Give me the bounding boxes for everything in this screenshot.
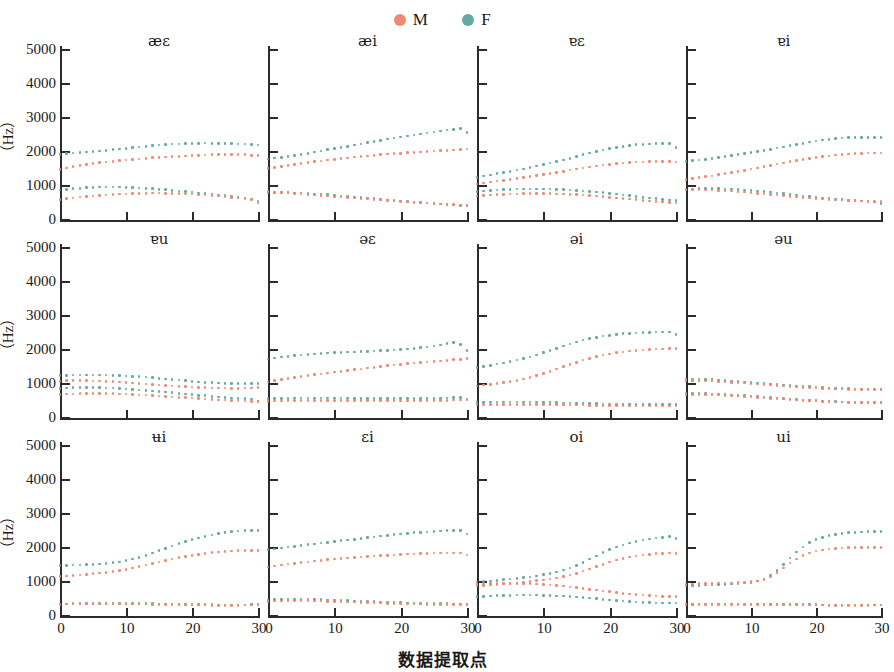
- data-point: [582, 404, 585, 407]
- data-point: [217, 195, 220, 198]
- panel-12: ui0102030: [686, 428, 881, 644]
- data-point: [307, 399, 310, 402]
- panel-10: ɛi0102030: [268, 428, 467, 644]
- data-point: [535, 192, 538, 195]
- panel-title: ʉi: [60, 428, 258, 446]
- x-tick-label: 0: [457, 621, 499, 636]
- data-point: [763, 603, 766, 606]
- data-point: [320, 600, 323, 603]
- data-point: [204, 194, 207, 197]
- data-point: [85, 603, 88, 606]
- y-tick-label: 5000: [6, 438, 56, 453]
- data-point: [873, 200, 876, 203]
- data-point: [724, 189, 727, 192]
- data-point: [244, 400, 247, 403]
- data-point: [237, 400, 240, 403]
- data-point: [704, 393, 707, 396]
- data-point: [555, 193, 558, 196]
- data-point: [92, 392, 95, 395]
- data-point: [72, 197, 75, 200]
- data-point: [399, 400, 402, 403]
- data-point: [730, 394, 733, 397]
- data-point: [72, 603, 75, 606]
- data-point: [642, 594, 645, 597]
- data-point: [413, 399, 416, 402]
- x-axis-line: [477, 418, 678, 420]
- data-point: [433, 202, 436, 205]
- data-point: [145, 394, 148, 397]
- data-point: [502, 403, 505, 406]
- data-point: [769, 193, 772, 196]
- data-point: [675, 595, 678, 598]
- data-point: [287, 191, 290, 194]
- data-point: [419, 603, 422, 606]
- data-point: [333, 195, 336, 198]
- data-point: [622, 197, 625, 200]
- legend-label-f: F: [481, 10, 491, 30]
- data-point: [171, 603, 174, 606]
- data-point: [340, 600, 343, 603]
- data-point: [549, 192, 552, 195]
- data-point: [873, 604, 876, 607]
- data-point: [379, 399, 382, 402]
- data-point: [340, 196, 343, 199]
- x-tick: [258, 212, 260, 220]
- data-point: [769, 397, 772, 400]
- plot-area: 010002000300040005000（Hz）0102030: [60, 446, 258, 616]
- data-point: [661, 201, 664, 204]
- data-point: [802, 196, 805, 199]
- data-point: [151, 603, 154, 606]
- data-point: [867, 604, 870, 607]
- panel-4: ɐi: [686, 32, 881, 248]
- data-point: [118, 393, 121, 396]
- data-point: [698, 603, 701, 606]
- data-point: [655, 595, 658, 598]
- data-point: [808, 399, 811, 402]
- data-point: [197, 604, 200, 607]
- data-point: [873, 401, 876, 404]
- data-point: [685, 393, 688, 396]
- data-point: [642, 405, 645, 408]
- data-point: [756, 192, 759, 195]
- data-point: [439, 603, 442, 606]
- panel-1: æɛ010002000300040005000（Hz）: [60, 32, 258, 248]
- data-point: [476, 195, 479, 198]
- data-point: [145, 603, 148, 606]
- data-point: [516, 193, 519, 196]
- data-point: [555, 584, 558, 587]
- data-point: [691, 393, 694, 396]
- data-point: [217, 399, 220, 402]
- data-point: [482, 194, 485, 197]
- data-point: [569, 404, 572, 407]
- data-point: [847, 401, 850, 404]
- data-point: [300, 192, 303, 195]
- data-point: [476, 583, 479, 586]
- data-point: [346, 196, 349, 199]
- data-point: [867, 401, 870, 404]
- data-point: [717, 394, 720, 397]
- data-point: [615, 404, 618, 407]
- data-point: [737, 395, 740, 398]
- x-tick-label: 10: [523, 621, 565, 636]
- data-point: [250, 604, 253, 607]
- plot-area: [268, 50, 467, 220]
- data-point: [313, 194, 316, 197]
- data-point: [379, 602, 382, 605]
- x-axis-line: [686, 220, 883, 222]
- x-tick-label: 20: [172, 621, 214, 636]
- data-point: [224, 604, 227, 607]
- data-point: [406, 400, 409, 403]
- plot-area: [686, 50, 881, 220]
- data-point: [287, 599, 290, 602]
- data-point: [446, 603, 449, 606]
- data-point: [184, 193, 187, 196]
- x-axis-line: [60, 418, 260, 420]
- data-point: [300, 599, 303, 602]
- data-point: [509, 193, 512, 196]
- data-point: [171, 396, 174, 399]
- data-point: [320, 194, 323, 197]
- data-point: [333, 399, 336, 402]
- data-point: [555, 403, 558, 406]
- data-point: [622, 405, 625, 408]
- data-point: [724, 394, 727, 397]
